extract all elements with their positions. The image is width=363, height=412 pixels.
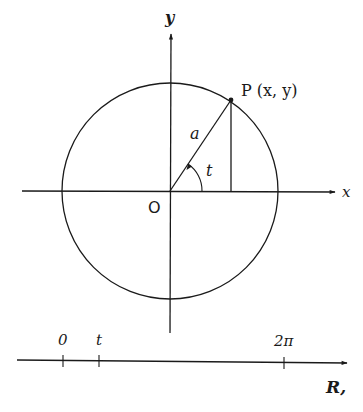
number-line-tick-t-label: t	[96, 333, 102, 348]
radius-line	[170, 100, 231, 191]
radius-label: a	[190, 126, 200, 142]
number-line	[17, 360, 347, 363]
diagram-graphics	[0, 0, 363, 412]
y-axis-label: y	[165, 10, 174, 26]
diagram-canvas: y x O a t P (x, y) 0 t 2π R,	[0, 0, 363, 412]
angle-arc	[188, 164, 202, 191]
y-axis	[170, 34, 171, 333]
point-p-label: P (x, y)	[241, 83, 298, 99]
x-axis	[22, 191, 335, 192]
number-line-tick-0-label: 0	[58, 333, 68, 348]
number-line-label: R,	[326, 379, 346, 396]
number-line-tick-2pi-label: 2π	[274, 334, 293, 349]
x-axis-label: x	[342, 185, 350, 200]
origin-label: O	[148, 200, 161, 216]
point-p-dot	[229, 98, 234, 103]
angle-label: t	[206, 163, 212, 179]
